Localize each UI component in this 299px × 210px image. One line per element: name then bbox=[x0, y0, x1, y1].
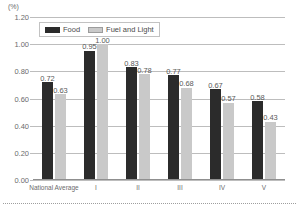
bar-fuel-and-light: 0.68 bbox=[181, 88, 192, 180]
bar-fuel-and-light: 0.43 bbox=[265, 122, 276, 180]
x-axis-category-label: II bbox=[136, 184, 140, 191]
bar-group: 0.951.00I bbox=[84, 17, 108, 180]
bar-food: 0.58 bbox=[252, 101, 263, 180]
bar-chart-figure: (%) 1.201.000.800.600.400.200.00 0.720.6… bbox=[0, 0, 299, 210]
bar-food: 0.83 bbox=[126, 67, 137, 180]
bar-fuel-and-light: 0.63 bbox=[55, 94, 66, 180]
bar-food: 0.77 bbox=[168, 75, 179, 180]
bar-fuel-and-light: 1.00 bbox=[97, 44, 108, 180]
y-axis-tick-label: 0.40 bbox=[14, 121, 29, 130]
legend-item-food: Food bbox=[45, 25, 80, 34]
bar-food: 0.95 bbox=[84, 51, 95, 180]
bottom-dotted-rule bbox=[3, 203, 296, 204]
y-axis-tick-label: 0.60 bbox=[14, 94, 29, 103]
bar-value-label: 0.68 bbox=[179, 80, 194, 88]
axis-unit-label: (%) bbox=[8, 3, 19, 10]
y-axis-tick-label: 0.20 bbox=[14, 148, 29, 157]
y-axis-tick-label: 1.00 bbox=[14, 40, 29, 49]
bar-value-label: 0.72 bbox=[40, 75, 55, 83]
gridline bbox=[33, 180, 285, 181]
chart-legend: Food Fuel and Light bbox=[39, 22, 160, 37]
plot-area: 1.201.000.800.600.400.200.00 0.720.63Nat… bbox=[33, 17, 285, 180]
bar-value-label: 0.67 bbox=[208, 82, 223, 90]
bar-group: 0.720.63National Average bbox=[42, 17, 66, 180]
x-axis-category-label: I bbox=[95, 184, 97, 191]
bar-group: 0.670.57IV bbox=[210, 17, 234, 180]
bar-value-label: 0.78 bbox=[137, 67, 152, 75]
bar-value-label: 0.63 bbox=[53, 87, 68, 95]
bar-value-label: 0.58 bbox=[250, 94, 265, 102]
bar-food: 0.72 bbox=[42, 82, 53, 180]
bar-food: 0.67 bbox=[210, 89, 221, 180]
legend-swatch-food-icon bbox=[45, 27, 60, 33]
x-axis-category-label: National Average bbox=[29, 184, 78, 191]
bar-fuel-and-light: 0.78 bbox=[139, 74, 150, 180]
legend-label-food: Food bbox=[63, 25, 80, 34]
x-axis-category-label: V bbox=[262, 184, 266, 191]
legend-item-fuel-and-light: Fuel and Light bbox=[88, 25, 154, 34]
bar-group: 0.830.78II bbox=[126, 17, 150, 180]
bar-value-label: 1.00 bbox=[95, 37, 110, 45]
legend-label-fuel-and-light: Fuel and Light bbox=[106, 25, 154, 34]
x-axis-category-label: III bbox=[177, 184, 182, 191]
bar-group: 0.580.43V bbox=[252, 17, 276, 180]
y-axis-tick-label: 0.80 bbox=[14, 67, 29, 76]
bar-value-label: 0.57 bbox=[221, 95, 236, 103]
bar-group: 0.770.68III bbox=[168, 17, 192, 180]
y-axis-tick-label: 1.20 bbox=[14, 13, 29, 22]
y-axis-tick-mark bbox=[30, 180, 33, 181]
bar-fuel-and-light: 0.57 bbox=[223, 103, 234, 180]
x-axis-line bbox=[33, 179, 285, 180]
legend-swatch-fuel-and-light-icon bbox=[88, 27, 103, 33]
x-axis-category-label: IV bbox=[219, 184, 225, 191]
y-axis-tick-label: 0.00 bbox=[14, 176, 29, 185]
bar-value-label: 0.43 bbox=[263, 114, 278, 122]
bar-value-label: 0.77 bbox=[166, 68, 181, 76]
bars-layer: 0.720.63National Average0.951.00I0.830.7… bbox=[33, 17, 285, 180]
